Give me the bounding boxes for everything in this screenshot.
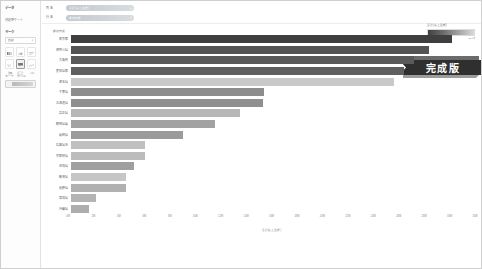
bar-track <box>71 87 476 98</box>
bar-row-label: 静岡県福 <box>42 122 71 126</box>
bar-row-label: 新潟県 <box>42 175 71 179</box>
x-axis-tick: 18M <box>294 215 299 218</box>
bar-row-label: 愛知県都 <box>42 69 71 73</box>
bar-row-label: 北海道県 <box>42 101 71 105</box>
mark-option-label: パス <box>30 72 34 75</box>
columns-shelf-pill[interactable]: 合計(売上金額) <box>66 5 134 11</box>
bar-track <box>71 161 476 172</box>
bar[interactable] <box>71 78 395 86</box>
bar-track <box>71 34 476 45</box>
mark-option-path[interactable]: パス <box>27 59 36 69</box>
bar-track <box>71 108 476 119</box>
x-axis-tick: 30M <box>447 215 452 218</box>
bar[interactable] <box>71 120 215 128</box>
x-axis-tick: 2M <box>92 215 96 218</box>
bar-row-label: 埼玉県 <box>42 80 71 84</box>
bar-row[interactable]: 東京都 <box>42 34 475 45</box>
bar[interactable] <box>71 141 146 149</box>
bar[interactable] <box>71 173 127 181</box>
bar[interactable] <box>71 205 90 213</box>
bar[interactable] <box>71 99 263 107</box>
rows-shelf-value: 都道府県 <box>69 16 81 20</box>
bar-track <box>71 119 476 130</box>
x-axis-tick: 20M <box>320 215 325 218</box>
bar-track <box>71 55 476 66</box>
bar[interactable] <box>71 35 453 43</box>
bar-row-label: 大阪府 <box>42 58 71 62</box>
bar-row[interactable]: 広島県市 <box>42 140 475 151</box>
bar[interactable] <box>71 194 96 202</box>
bar-track <box>71 66 476 77</box>
x-axis-tick: 26M <box>396 215 401 218</box>
bar-track <box>71 45 476 56</box>
x-axis-tick: 22M <box>345 215 350 218</box>
x-axis-tick: 0M <box>66 215 70 218</box>
bar-row[interactable]: 神奈川県 <box>42 45 475 56</box>
bar[interactable] <box>71 184 127 192</box>
bar[interactable] <box>71 152 146 160</box>
tooltip-icon <box>18 52 23 70</box>
columns-shelf-row: 列 名 合計(売上金額) <box>46 5 481 11</box>
bar-track <box>71 204 476 215</box>
mark-option-detail[interactable]: 詳細 <box>5 59 14 69</box>
bar-row[interactable]: 北海道県 <box>42 98 475 109</box>
x-axis-title: 合計(売上金額) <box>68 228 475 232</box>
bar-row[interactable]: 福岡県 <box>42 129 475 140</box>
bar-track <box>71 129 476 140</box>
footer-label-1: マーク <box>5 74 14 78</box>
bar[interactable] <box>71 46 430 54</box>
bar-track <box>71 98 476 109</box>
x-axis-tick: 14M <box>244 215 249 218</box>
measure-pill-chip <box>12 82 34 86</box>
bar-row[interactable]: 埼玉県 <box>42 76 475 87</box>
bar-row[interactable]: 兵庫県 <box>42 108 475 119</box>
bar-track <box>71 151 476 162</box>
detail-icon <box>7 53 12 71</box>
rows-shelf-row: 行 名 都道府県 <box>46 15 481 21</box>
rows-shelf-label: 行 名 <box>46 15 62 20</box>
bar-row[interactable]: 宮城県 <box>42 193 475 204</box>
measure-pill[interactable] <box>5 80 36 88</box>
marks-section: マーク 自動 ▾ 色 サイズ <box>5 30 36 88</box>
bar-row[interactable]: 茨城県 <box>42 161 475 172</box>
footer-label-2: ラベル <box>17 74 26 78</box>
bar-row-label: 長野県 <box>42 186 71 190</box>
x-axis-tick: 8M <box>168 215 172 218</box>
bar[interactable] <box>71 162 134 170</box>
bar-row[interactable]: 沖縄県 <box>42 204 475 215</box>
chevron-down-icon <box>130 17 132 18</box>
chart-axis-title-y: 都道府県 <box>53 29 475 33</box>
bar-track <box>71 193 476 204</box>
bar[interactable] <box>71 109 240 117</box>
measures-section: 測定値ケート <box>5 18 36 23</box>
bar-row-label: 兵庫県 <box>42 111 71 115</box>
bar-row[interactable]: 新潟県 <box>42 172 475 183</box>
dashboard-window: データ 測定値ケート マーク 自動 ▾ 色 <box>0 0 482 269</box>
bar[interactable] <box>71 131 184 139</box>
mark-option-tooltip[interactable]: ツールヒント <box>16 59 25 69</box>
bar-track <box>71 172 476 183</box>
path-icon <box>29 53 34 71</box>
bar-row-label: 神奈川県 <box>42 48 71 52</box>
bar-row-label: 千葉県 <box>42 90 71 94</box>
x-axis-tick: 16M <box>269 215 274 218</box>
bar[interactable] <box>71 67 405 75</box>
bar-row-label: 福岡県 <box>42 133 71 137</box>
bar-row[interactable]: 静岡県福 <box>42 119 475 130</box>
sidebar-header: データ <box>5 6 36 11</box>
x-axis-tick: 24M <box>371 215 376 218</box>
drag-handle-icon[interactable] <box>8 82 10 86</box>
bar-row-label: 沖縄県 <box>42 207 71 211</box>
bar-row-label: 京都府県 <box>42 154 71 158</box>
bar-row[interactable]: 長野県 <box>42 182 475 193</box>
bar[interactable] <box>71 56 415 64</box>
bar[interactable] <box>71 88 264 96</box>
bar-row[interactable]: 愛知県都 <box>42 66 475 77</box>
bar-row[interactable]: 千葉県 <box>42 87 475 98</box>
bar-row[interactable]: 大阪府 <box>42 55 475 66</box>
rows-shelf-pill[interactable]: 都道府県 <box>66 15 134 21</box>
columns-shelf-value: 合計(売上金額) <box>69 6 90 10</box>
marks-footer: マーク ラベル <box>5 74 36 88</box>
bar-row[interactable]: 京都府県 <box>42 151 475 162</box>
marks-label: マーク <box>5 30 36 35</box>
